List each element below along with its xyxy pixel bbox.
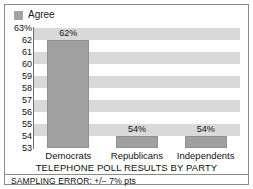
footnote-divider	[5, 174, 248, 175]
legend-label-agree: Agree	[28, 10, 55, 20]
y-axis-tick: 57	[22, 96, 32, 105]
y-axis-tick: 59	[22, 72, 32, 81]
x-axis-label-republicans: Republicans	[103, 150, 172, 161]
bar-value-label: 62%	[47, 29, 89, 38]
bar-independents[interactable]	[185, 136, 227, 148]
poll-results-chart: Agree 63%62616059585756555453 62%54%54% …	[0, 0, 253, 189]
x-axis-label-democrats: Democrats	[34, 150, 103, 161]
y-axis-tick: 56	[22, 108, 32, 117]
y-axis-tick: 63%	[14, 24, 32, 33]
y-axis-tick: 58	[22, 84, 32, 93]
y-axis-tick-labels: 63%62616059585756555453	[10, 27, 32, 149]
sampling-error-note: SAMPLING ERROR: +/− 7% pts	[11, 176, 136, 186]
y-axis-tick: 62	[22, 36, 32, 45]
bar-republicans[interactable]	[116, 136, 158, 148]
plot-area: 62%54%54%	[34, 28, 240, 148]
x-axis-label-independents: Independents	[171, 150, 240, 161]
legend-swatch-agree-icon	[14, 11, 23, 20]
y-axis-tick: 54	[22, 132, 32, 141]
y-axis-tick: 61	[22, 48, 32, 57]
chart-legend: Agree	[14, 9, 55, 21]
bar-value-label: 54%	[185, 125, 227, 134]
bar-value-label: 54%	[116, 125, 158, 134]
y-axis-tick: 60	[22, 60, 32, 69]
y-axis-tick: 53	[22, 144, 32, 153]
bar-democrats[interactable]	[47, 40, 89, 148]
x-axis-title: TELEPHONE POLL RESULTS BY PARTY	[5, 162, 248, 173]
x-axis-category-labels: DemocratsRepublicansIndependents	[34, 150, 240, 162]
plot-wrapper: 63%62616059585756555453 62%54%54%	[10, 27, 240, 149]
y-axis-tick: 55	[22, 120, 32, 129]
bars-layer: 62%54%54%	[34, 28, 240, 148]
